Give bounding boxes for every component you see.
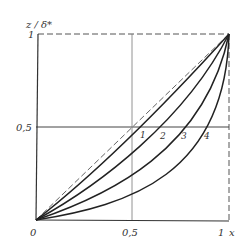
curve-label-3: 3 <box>181 131 187 141</box>
x-tick-0: 0 <box>30 227 37 238</box>
curve-label-2: 2 <box>159 131 166 141</box>
x-tick-1: 1 <box>218 227 224 238</box>
chart: z / δ* 1 0,5 0 0,5 1 x 1 2 3 4 <box>0 0 249 247</box>
x-axis <box>36 220 229 221</box>
y-tick-0.5: 0,5 <box>16 122 32 133</box>
curve-label-1: 1 <box>140 130 146 140</box>
curve-label-4: 4 <box>203 131 210 141</box>
x-axis-label: x <box>229 227 235 238</box>
x-tick-0.5: 0,5 <box>122 227 138 238</box>
y-tick-1: 1 <box>28 29 34 40</box>
